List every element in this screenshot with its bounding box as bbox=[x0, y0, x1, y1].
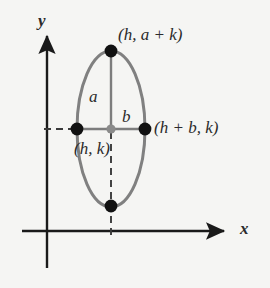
point-right-covertex bbox=[139, 123, 152, 136]
semi-minor-label: b bbox=[122, 108, 131, 125]
point-left-covertex bbox=[71, 123, 84, 136]
point-center bbox=[106, 124, 115, 133]
y-axis-label: y bbox=[38, 12, 46, 29]
x-axis-label: x bbox=[240, 220, 249, 237]
point-top-vertex bbox=[105, 45, 118, 58]
right-covertex-label: (h + b, k) bbox=[154, 119, 218, 136]
semi-major-label: a bbox=[89, 88, 98, 105]
ellipse-figure: y x (h, a + k) (h + b, k) (h, k) a b bbox=[0, 0, 270, 288]
center-label: (h, k) bbox=[74, 140, 110, 157]
point-bottom-vertex bbox=[105, 200, 118, 213]
top-vertex-label: (h, a + k) bbox=[118, 26, 182, 43]
